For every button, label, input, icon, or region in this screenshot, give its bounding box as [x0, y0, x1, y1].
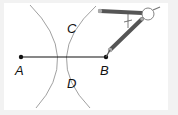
compass-icon	[98, 7, 160, 57]
label-b: B	[100, 64, 109, 77]
label-d: D	[67, 77, 76, 90]
label-c: C	[67, 22, 76, 35]
label-a: A	[15, 64, 24, 77]
point-a	[19, 55, 23, 59]
construction-diagram	[0, 0, 178, 115]
